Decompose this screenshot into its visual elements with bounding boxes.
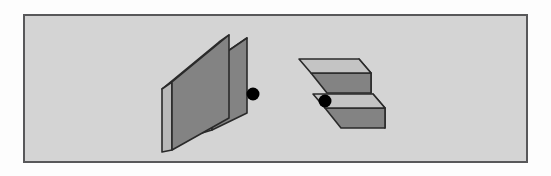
left-3d-object[interactable]: [162, 35, 260, 152]
figure-canvas: [0, 0, 551, 176]
stimulus-panel: [0, 0, 551, 176]
slab-front-face: [172, 35, 229, 150]
slab-side-face: [162, 82, 172, 152]
slab-top-face: [299, 59, 371, 73]
right-object-slab-lower: [299, 59, 371, 93]
right-object-reference-dot: [319, 95, 332, 108]
slab-front-face: [311, 73, 371, 93]
slab-front-face: [325, 108, 385, 128]
left-object-reference-dot: [247, 88, 260, 101]
left-object-slab-near: [162, 35, 229, 152]
right-3d-object[interactable]: [299, 59, 385, 128]
